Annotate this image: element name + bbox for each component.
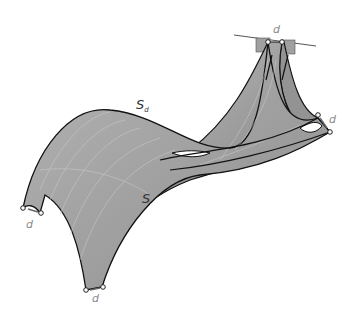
point-top-right bbox=[280, 40, 285, 45]
label-d-bottom: d bbox=[92, 292, 100, 305]
shell-diagram: Sd S d d d d bbox=[0, 0, 357, 322]
label-surface-sd: Sd bbox=[136, 97, 149, 114]
point-bottom-left bbox=[84, 288, 89, 293]
label-d-left: d bbox=[26, 218, 34, 231]
point-top-left bbox=[266, 40, 271, 45]
point-right-lower bbox=[328, 130, 333, 135]
point-left-outer bbox=[21, 206, 26, 211]
label-d-right: d bbox=[329, 113, 337, 126]
point-bottom-right bbox=[101, 285, 106, 290]
label-surface-s: S bbox=[142, 191, 150, 206]
point-right-upper bbox=[316, 113, 321, 118]
label-d-top: d bbox=[273, 23, 281, 36]
point-left-inner bbox=[39, 211, 44, 216]
